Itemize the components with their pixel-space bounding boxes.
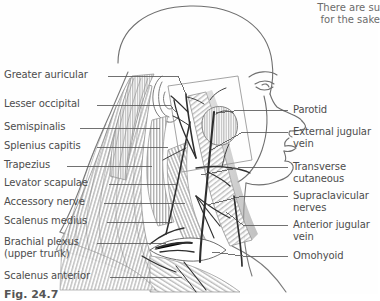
- label-text: Anterior jugular: [293, 219, 370, 230]
- label-supraclavicular-nerves: Supraclavicular nerves: [293, 190, 369, 213]
- label-scalenus-anterior: Scalenus anterior: [4, 270, 90, 282]
- label-text-line2: nerves: [293, 202, 369, 214]
- label-scalenus-medius: Scalenus medius: [4, 215, 87, 227]
- label-brachial-plexus: Brachial plexus (upper trunk): [4, 236, 79, 259]
- label-text: Accessory nerve: [4, 196, 85, 207]
- label-accessory-nerve: Accessory nerve: [4, 196, 85, 208]
- label-text: Brachial plexus: [4, 236, 79, 247]
- label-text: Splenius capitis: [4, 140, 81, 151]
- label-text-line2: vein: [293, 138, 371, 150]
- label-external-jugular-vein: External jugular vein: [293, 126, 371, 149]
- label-text: Omohyoid: [293, 250, 343, 261]
- top-note: There are su for the sake: [317, 2, 380, 26]
- label-text-line2: vein: [293, 231, 370, 243]
- label-transverse-cutaneous: Transverse cutaneous: [293, 161, 346, 184]
- top-note-line-1: There are su: [317, 2, 380, 14]
- label-anterior-jugular-vein: Anterior jugular vein: [293, 219, 370, 242]
- label-text: External jugular: [293, 126, 371, 137]
- label-text-line2: cutaneous: [293, 173, 346, 185]
- label-trapezius: Trapezius: [4, 159, 50, 171]
- label-text: Semispinalis: [4, 121, 65, 132]
- label-text-line2: (upper trunk): [4, 248, 79, 260]
- label-text: Scalenus anterior: [4, 270, 90, 281]
- label-semispinalis: Semispinalis: [4, 121, 65, 133]
- label-text: Transverse: [293, 161, 346, 172]
- label-parotid: Parotid: [293, 104, 327, 116]
- label-lesser-occipital: Lesser occipital: [4, 98, 80, 110]
- label-greater-auricular: Greater auricular: [4, 69, 88, 81]
- top-note-line-2: for the sake: [317, 14, 380, 26]
- label-omohyoid: Omohyoid: [293, 250, 343, 262]
- label-splenius-capitis: Splenius capitis: [4, 140, 81, 152]
- figure-caption: Fig. 24.7: [4, 288, 58, 301]
- label-text: Scalenus medius: [4, 215, 87, 226]
- label-text: Lesser occipital: [4, 98, 80, 109]
- label-text: Parotid: [293, 104, 327, 115]
- label-text: Supraclavicular: [293, 190, 369, 201]
- label-levator-scapulae: Levator scapulae: [4, 177, 88, 189]
- label-text: Greater auricular: [4, 69, 88, 80]
- label-text: Levator scapulae: [4, 177, 88, 188]
- label-text: Trapezius: [4, 159, 50, 170]
